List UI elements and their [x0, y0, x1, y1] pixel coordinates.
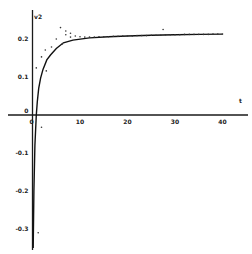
data-point	[89, 36, 91, 38]
data-point	[222, 33, 224, 35]
x-tick-label: 0	[29, 118, 33, 125]
data-point	[56, 38, 58, 40]
y-tick-label: 0.1	[18, 73, 29, 80]
y-tick-label: -0.2	[15, 187, 28, 194]
data-point	[62, 43, 64, 45]
data-point	[208, 34, 210, 36]
data-point	[46, 70, 48, 72]
data-point	[189, 34, 191, 36]
x-axis-label: t	[239, 97, 242, 104]
y-tick-label: 0.2	[18, 35, 29, 42]
data-point	[165, 34, 167, 36]
x-tick-label: 20	[123, 118, 131, 125]
x-tick-label: 30	[171, 118, 179, 125]
data-point	[184, 34, 186, 36]
data-point	[84, 36, 86, 38]
data-point	[203, 34, 205, 36]
data-point	[108, 36, 110, 38]
data-point	[117, 36, 119, 38]
data-points	[36, 27, 224, 234]
data-point	[146, 35, 148, 37]
data-point	[212, 33, 214, 35]
y-tick-label: -0.3	[15, 225, 28, 232]
y-axis-label: v2	[34, 13, 42, 20]
data-point	[170, 34, 172, 36]
axes: t v2	[8, 10, 248, 250]
data-point	[132, 35, 134, 37]
x-tick-label: 10	[76, 118, 84, 125]
data-point	[65, 34, 67, 36]
data-point	[75, 35, 77, 37]
data-point	[60, 27, 62, 29]
data-point	[179, 34, 181, 36]
data-point	[174, 34, 176, 36]
data-point	[151, 34, 153, 36]
data-point	[65, 30, 67, 32]
data-point	[217, 33, 219, 35]
data-point	[141, 35, 143, 37]
y-tick-label: -0.1	[15, 149, 28, 156]
x-tick-labels: 010203040	[29, 118, 226, 125]
data-point	[136, 35, 138, 37]
data-point	[37, 232, 39, 234]
y-tick-label: 0	[24, 107, 28, 114]
data-point	[113, 36, 115, 38]
data-point	[51, 46, 53, 48]
data-point	[103, 36, 105, 38]
y-tick-labels: 0.20.10-0.1-0.2-0.3	[15, 35, 28, 232]
data-point	[127, 35, 129, 37]
x-tick-label: 40	[218, 118, 226, 125]
data-point	[162, 29, 164, 31]
data-point	[160, 34, 162, 36]
data-point	[198, 34, 200, 36]
data-point	[79, 36, 81, 38]
data-point	[122, 35, 124, 37]
data-point	[41, 56, 43, 58]
fitted-curve	[33, 34, 222, 248]
chart-plot-area: t v2 010203040 0.20.10-0.1-0.2-0.3	[0, 0, 252, 254]
data-point	[36, 67, 38, 69]
data-point	[45, 49, 47, 51]
data-point	[94, 36, 96, 38]
data-point	[98, 36, 100, 38]
data-point	[193, 34, 195, 36]
data-point	[70, 33, 72, 35]
data-point	[70, 36, 72, 38]
data-point	[41, 126, 43, 128]
data-point	[155, 34, 157, 36]
